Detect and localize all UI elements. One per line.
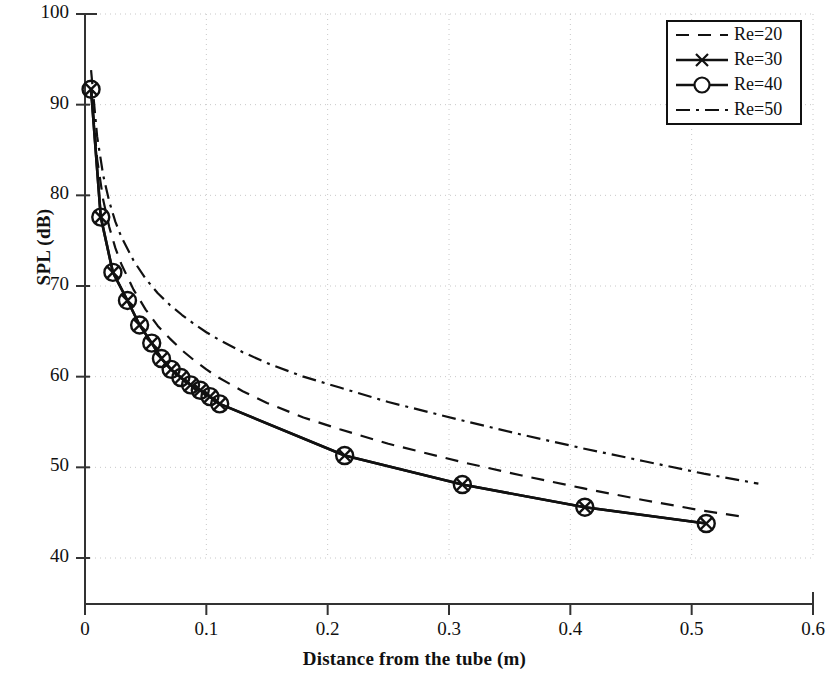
y-tick-label: 90 xyxy=(9,92,69,114)
y-tick-label: 100 xyxy=(9,1,69,23)
legend-item: Re=20 xyxy=(668,22,800,47)
y-tick-label: 50 xyxy=(9,454,69,476)
y-tick-label: 40 xyxy=(9,545,69,567)
x-axis-label: Distance from the tube (m) xyxy=(0,648,829,670)
x-tick-label: 0.2 xyxy=(298,618,358,640)
legend-label: Re=50 xyxy=(734,99,782,120)
legend-item: Re=50 xyxy=(668,97,800,122)
legend-swatch-re50-icon xyxy=(674,100,730,120)
legend-label: Re=20 xyxy=(734,24,782,45)
series-layer xyxy=(83,70,759,532)
series-re30 xyxy=(85,83,713,530)
legend-label: Re=30 xyxy=(734,49,782,70)
x-tick-label: 0.3 xyxy=(419,618,479,640)
y-axis-label: SPL (dB) xyxy=(33,167,55,327)
series-re40 xyxy=(83,81,715,532)
legend-swatch-re40-icon xyxy=(674,75,730,95)
legend-swatch-re20-icon xyxy=(674,25,730,45)
legend-label: Re=40 xyxy=(734,74,782,95)
x-tick-label: 0.1 xyxy=(176,618,236,640)
series-re50 xyxy=(91,70,758,483)
legend: Re=20Re=30Re=40Re=50 xyxy=(666,20,802,125)
legend-item: Re=40 xyxy=(668,72,800,97)
legend-item: Re=30 xyxy=(668,47,800,72)
legend-swatch-re30-icon xyxy=(674,50,730,70)
x-tick-label: 0.4 xyxy=(540,618,600,640)
x-tick-label: 0 xyxy=(55,618,115,640)
series-re20 xyxy=(91,89,746,517)
x-tick-label: 0.6 xyxy=(783,618,829,640)
chart-figure: 405060708090100 00.10.20.30.40.50.6 SPL … xyxy=(0,0,829,678)
x-tick-label: 0.5 xyxy=(662,618,722,640)
y-tick-label: 60 xyxy=(9,364,69,386)
